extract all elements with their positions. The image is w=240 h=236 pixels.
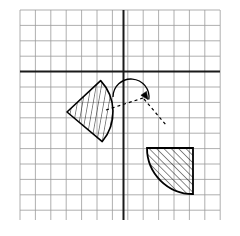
- figure-root: [0, 0, 240, 236]
- rotation-diagram-svg: [0, 0, 240, 236]
